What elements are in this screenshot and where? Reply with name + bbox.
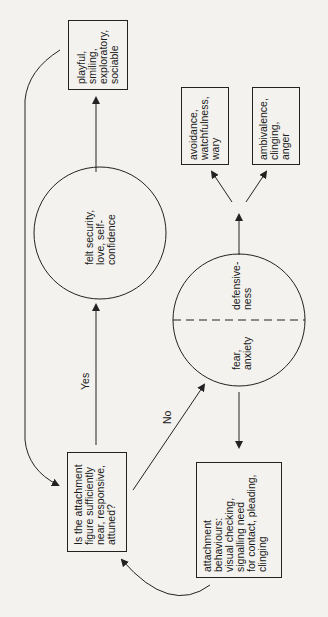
secure-text: felt security, love, self- confidence bbox=[84, 210, 117, 265]
question-text: Is the attachment figure sufficiently ne… bbox=[73, 464, 117, 545]
defensive-text: defensive- ness bbox=[231, 262, 253, 310]
yes-label: Yes bbox=[80, 373, 91, 390]
outcome-secure-text: playful, smiling, exploratory, sociable bbox=[76, 30, 120, 84]
fear-text: fear, anxiety bbox=[231, 337, 253, 370]
attachment-behaviours-text: attachment behaviours: visual checking, … bbox=[202, 475, 268, 572]
no-label: No bbox=[162, 411, 173, 424]
ambivalence-text: ambivalence, clinging, anger bbox=[258, 98, 291, 160]
avoidance-text: avoidance, watchfulness, wary bbox=[188, 96, 221, 160]
